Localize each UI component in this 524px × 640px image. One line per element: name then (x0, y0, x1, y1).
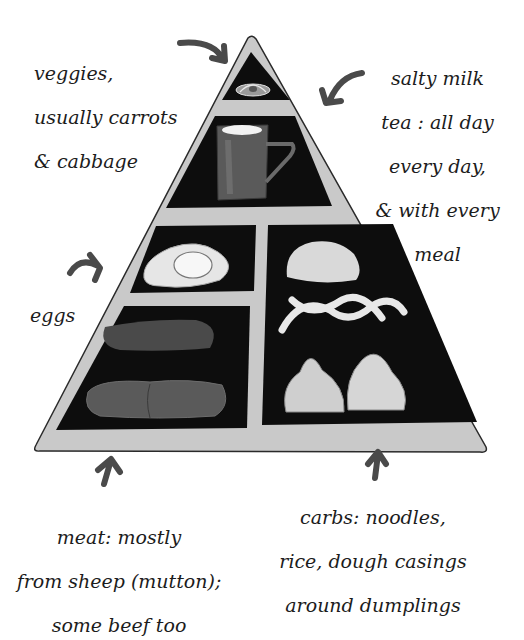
tea-label-line: meal (355, 243, 520, 265)
eggs-label-line: eggs (30, 304, 75, 326)
meat-label-line: some beef too (4, 614, 234, 636)
carbs-label-line: rice, dough casings (248, 550, 498, 572)
arrow-meat-icon (98, 459, 120, 484)
eggs-label: eggs (30, 282, 75, 348)
veggies-label-line: usually carrots (34, 106, 204, 128)
meat-label-line: meat: mostly (4, 526, 234, 548)
tea-label-line: salty milk (355, 67, 520, 89)
carbs-label-line: around dumplings (248, 594, 498, 616)
arrow-eggs-icon (70, 255, 100, 280)
meat-label-line: from sheep (mutton); (4, 570, 234, 592)
veggies-label: veggies, usually carrots & cabbage (34, 40, 204, 194)
arrow-carbs-icon (368, 452, 386, 478)
carbs-label: carbs: noodles, rice, dough casings arou… (248, 484, 498, 638)
veggies-label-line: & cabbage (34, 150, 204, 172)
tea-label: salty milk tea : all day every day, & wi… (355, 45, 520, 287)
meat-label: meat: mostly from sheep (mutton); some b… (4, 504, 234, 640)
carbs-label-line: carbs: noodles, (248, 506, 498, 528)
tea-label-line: tea : all day (355, 111, 520, 133)
tea-label-line: & with every (355, 199, 520, 221)
cabbage-carrot-icon (236, 84, 270, 96)
veggies-label-line: veggies, (34, 62, 204, 84)
tea-label-line: every day, (355, 155, 520, 177)
